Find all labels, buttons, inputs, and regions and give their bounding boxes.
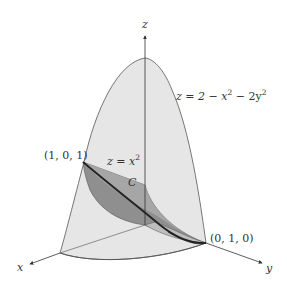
y-axis-label: y [265,262,273,275]
z-axis-label: z [141,18,148,31]
curve-c-label: C [128,176,137,189]
cylinder-equation: z = x2 [106,153,140,168]
y-axis [206,243,262,263]
paraboloid-equation: z = 2 − x2 − 2y2 [175,88,267,103]
x-axis [30,253,60,264]
point-1-0-1-label: (1, 0, 1) [44,149,88,162]
point-0-1-0-label: (0, 1, 0) [210,232,254,245]
paraboloid-diagram: z x y z = 2 − x2 − 2y2 z = x2 C (1, 0, 1… [0,0,287,288]
x-axis-label: x [17,261,24,274]
